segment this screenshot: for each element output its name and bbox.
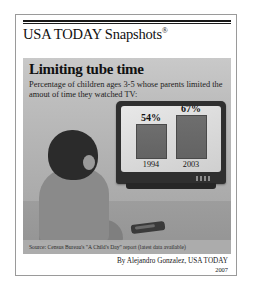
tv-screen: 54% 67% 1994 2003 bbox=[121, 106, 221, 172]
snapshot-infographic: USA TODAY Snapshots® Limiting tube time … bbox=[0, 0, 254, 290]
brand-title: USA TODAY Snapshots® bbox=[23, 24, 231, 43]
byline: By Alejandro Gonzalez, USA TODAY 2007 bbox=[28, 257, 228, 274]
source-strip: Source: Census Bureau's "A Child's Day" … bbox=[23, 240, 231, 254]
bar-value-label: 54% bbox=[141, 112, 161, 123]
source-text: Source: Census Bureau's "A Child's Day" … bbox=[23, 244, 186, 251]
television-set: 54% 67% 1994 2003 bbox=[116, 101, 226, 184]
table-row bbox=[136, 124, 167, 159]
category-label: 1994 bbox=[136, 160, 167, 170]
category-label: 2003 bbox=[176, 160, 207, 170]
child-illustration bbox=[31, 124, 117, 242]
child-ear bbox=[83, 155, 95, 170]
subtitle: Percentage of children ages 3-5 whose pa… bbox=[29, 80, 225, 99]
masthead: USA TODAY Snapshots® bbox=[23, 20, 231, 43]
brand-name: USA TODAY Snapshots bbox=[23, 26, 162, 42]
tv-control-buttons bbox=[196, 176, 218, 181]
table-row bbox=[176, 115, 207, 159]
bar-column: 54% bbox=[136, 112, 167, 159]
chart-category-labels: 1994 2003 bbox=[135, 159, 207, 170]
graphic-panel: Limiting tube time Percentage of childre… bbox=[23, 58, 231, 254]
page-title: Limiting tube time bbox=[29, 61, 144, 78]
masthead-rule-thick bbox=[23, 20, 231, 22]
chart-bars: 54% 67% bbox=[135, 111, 207, 159]
infographic-card: USA TODAY Snapshots® Limiting tube time … bbox=[15, 14, 237, 276]
byline-year: 2007 bbox=[28, 266, 228, 274]
byline-credit: By Alejandro Gonzalez, USA TODAY bbox=[28, 257, 228, 266]
bar-value-label: 67% bbox=[181, 106, 201, 114]
registered-mark-icon: ® bbox=[162, 26, 168, 35]
tv-base bbox=[126, 183, 216, 189]
bar-chart: 54% 67% 1994 2003 bbox=[121, 106, 221, 172]
bar-column: 67% bbox=[176, 106, 207, 159]
